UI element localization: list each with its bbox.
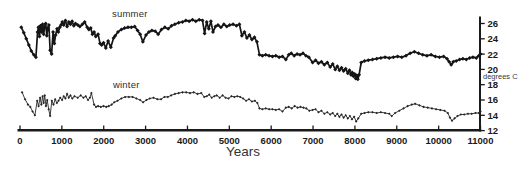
y-tick-label: 26: [488, 18, 499, 29]
winter-polyline: [22, 92, 480, 121]
x-tick-label: 7000: [302, 135, 323, 146]
y-tick-label: 24: [488, 33, 499, 44]
x-tick-label: 1000: [51, 135, 72, 146]
summer-markers: [19, 18, 482, 82]
y-tick-label: 16: [488, 94, 499, 105]
x-tick-label: 3000: [135, 135, 156, 146]
x-axis-title: Years: [195, 144, 291, 159]
x-tick-label: 11000: [468, 135, 494, 146]
temperature-chart-figure: 0100020003000400050006000700080009000100…: [0, 0, 528, 170]
x-tick-label: 9000: [386, 135, 407, 146]
winter-markers: [21, 91, 482, 123]
x-tick-label: 0: [17, 135, 22, 146]
y-tick-label: 22: [488, 49, 499, 60]
y-axis-unit-label: degrees C: [483, 72, 518, 81]
winter-series-label: winter: [113, 79, 140, 90]
x-tick-label: 10000: [425, 135, 451, 146]
x-tick-label: 8000: [344, 135, 365, 146]
y-tick-label: 12: [488, 125, 499, 136]
summer-series-label: summer: [112, 8, 148, 19]
y-tick-label: 14: [488, 110, 499, 121]
x-tick-label: 2000: [93, 135, 114, 146]
